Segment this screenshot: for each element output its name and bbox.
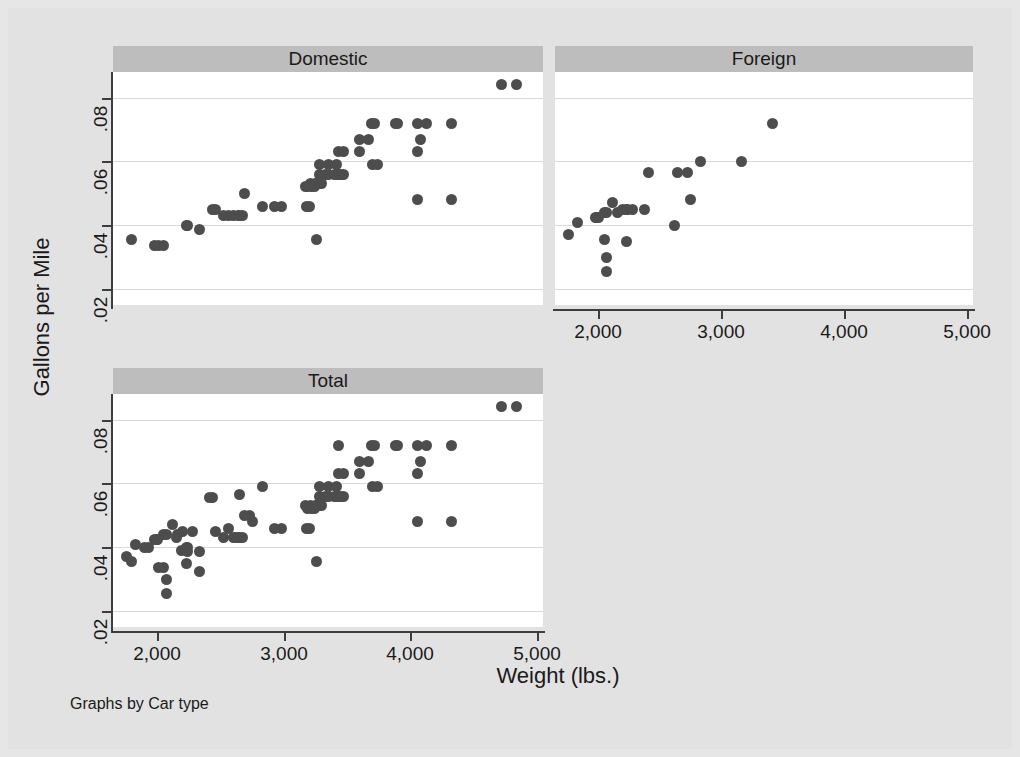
x-axis-line xyxy=(111,631,545,633)
scatter-point xyxy=(572,217,583,228)
stata-graph-canvas: Domestic .02.04.06.08 Foreign 2,0003,000… xyxy=(8,8,1012,749)
scatter-point xyxy=(363,456,374,467)
scatter-point xyxy=(372,481,383,492)
scatter-point xyxy=(372,159,383,170)
x-tick xyxy=(537,632,539,641)
scatter-point xyxy=(304,523,315,534)
scatter-point xyxy=(685,194,696,205)
scatter-point xyxy=(599,234,610,245)
x-tick-label: 2,000 xyxy=(112,643,202,665)
scatter-point xyxy=(257,481,268,492)
scatter-point xyxy=(669,220,680,231)
x-tick xyxy=(598,310,600,319)
x-tick-label: 5,000 xyxy=(492,643,582,665)
x-axis-line xyxy=(553,309,975,311)
panel-title-foreign: Foreign xyxy=(555,46,973,72)
scatter-point xyxy=(354,468,365,479)
plot-region-total xyxy=(113,394,543,627)
scatter-point xyxy=(181,558,192,569)
scatter-point xyxy=(601,266,612,277)
scatter-point xyxy=(412,146,423,157)
scatter-point xyxy=(621,236,632,247)
scatter-point xyxy=(511,79,522,90)
scatter-point xyxy=(643,167,654,178)
gridline xyxy=(113,611,543,612)
scatter-point xyxy=(601,252,612,263)
scatter-point xyxy=(593,212,604,223)
scatter-point xyxy=(338,169,349,180)
x-tick xyxy=(967,310,969,319)
panel-title-total: Total xyxy=(113,368,543,394)
scatter-point xyxy=(736,156,747,167)
scatter-point xyxy=(234,489,245,500)
scatter-point xyxy=(446,194,457,205)
x-tick xyxy=(721,310,723,319)
scatter-point xyxy=(511,401,522,412)
scatter-point xyxy=(392,118,403,129)
scatter-point xyxy=(158,562,169,573)
scatter-point xyxy=(412,468,423,479)
scatter-point xyxy=(304,201,315,212)
y-tick-label: .06 xyxy=(90,484,112,524)
scatter-point xyxy=(161,574,172,585)
scatter-point xyxy=(421,440,432,451)
scatter-point xyxy=(415,134,426,145)
scatter-point xyxy=(126,556,137,567)
gridline xyxy=(555,289,973,290)
scatter-point xyxy=(161,588,172,599)
x-axis-title: Weight (lbs.) xyxy=(448,663,668,689)
scatter-point xyxy=(333,440,344,451)
scatter-point xyxy=(695,156,706,167)
scatter-point xyxy=(152,534,163,545)
scatter-point xyxy=(421,118,432,129)
scatter-point xyxy=(311,234,322,245)
gridline xyxy=(555,161,973,162)
scatter-point xyxy=(276,201,287,212)
y-axis-title: Gallons per Mile xyxy=(29,197,55,437)
scatter-point xyxy=(126,234,137,245)
x-tick-label: 4,000 xyxy=(365,643,455,665)
scatter-point xyxy=(309,503,320,514)
x-tick-label: 2,000 xyxy=(553,321,643,343)
gridline xyxy=(113,98,543,99)
scatter-point xyxy=(682,167,693,178)
gridline xyxy=(113,420,543,421)
scatter-point xyxy=(276,523,287,534)
y-tick-label: .04 xyxy=(90,548,112,588)
scatter-point xyxy=(194,546,205,557)
scatter-point xyxy=(338,468,349,479)
scatter-point xyxy=(182,546,193,557)
scatter-point xyxy=(369,118,380,129)
scatter-point xyxy=(143,542,154,553)
scatter-point xyxy=(412,516,423,527)
scatter-point xyxy=(354,146,365,157)
gridline xyxy=(113,289,543,290)
scatter-point xyxy=(496,401,507,412)
scatter-point xyxy=(496,79,507,90)
scatter-point xyxy=(446,516,457,527)
x-tick-label: 4,000 xyxy=(799,321,889,343)
x-tick-label: 5,000 xyxy=(922,321,1012,343)
scatter-point xyxy=(412,194,423,205)
plot-region-foreign xyxy=(555,72,973,305)
scatter-point xyxy=(158,240,169,251)
scatter-point xyxy=(182,220,193,231)
scatter-point xyxy=(311,556,322,567)
panel-title-domestic: Domestic xyxy=(113,46,543,72)
scatter-point xyxy=(309,181,320,192)
scatter-point xyxy=(612,207,623,218)
x-tick-label: 3,000 xyxy=(676,321,766,343)
y-tick-label: .08 xyxy=(90,421,112,461)
scatter-point xyxy=(338,146,349,157)
scatter-point xyxy=(639,204,650,215)
scatter-point xyxy=(446,118,457,129)
y-tick-label: .04 xyxy=(90,226,112,266)
x-tick xyxy=(410,632,412,641)
scatter-point xyxy=(446,440,457,451)
scatter-point xyxy=(563,229,574,240)
scatter-point xyxy=(415,456,426,467)
scatter-point xyxy=(622,204,633,215)
plot-region-domestic xyxy=(113,72,543,305)
y-tick-label: .06 xyxy=(90,162,112,202)
gridline xyxy=(555,225,973,226)
